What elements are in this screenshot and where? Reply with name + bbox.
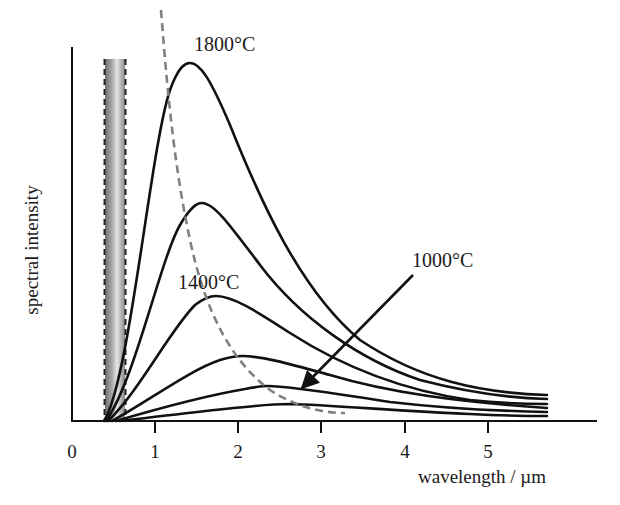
y-axis-label: spectral intensity <box>22 185 41 314</box>
x-tick-label-3: 3 <box>316 442 326 461</box>
x-tick-label-2: 2 <box>233 442 243 461</box>
x-ticks <box>155 421 488 433</box>
x-axis-label: wavelength / µm <box>418 467 546 486</box>
label-1400c: 1400°C <box>178 272 239 292</box>
label-1000c: 1000°C <box>412 250 473 270</box>
label-1800c: 1800°C <box>194 34 255 54</box>
x-tick-label-1: 1 <box>150 442 160 461</box>
x-tick-label-4: 4 <box>400 442 410 461</box>
blackbody-chart <box>0 0 620 505</box>
x-tick-label-5: 5 <box>483 442 493 461</box>
x-tick-label-0: 0 <box>67 442 77 461</box>
